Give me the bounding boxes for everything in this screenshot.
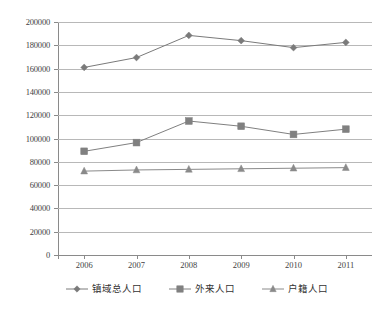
data-point-marker [342,39,349,46]
series-line [84,168,346,171]
population-line-chart: 0200004000060000800001000001200001400001… [0,0,392,319]
legend-label: 镇域总人口 [92,283,142,294]
legend-label: 外来人口 [195,283,235,294]
series-layer [0,0,392,319]
data-point-marker [81,148,88,155]
data-point-marker [290,164,297,171]
data-point-marker [185,32,192,39]
data-point-marker [185,165,192,172]
series-line [84,121,346,151]
chart-legend: 镇域总人口外来人口户籍人口 [0,283,392,294]
data-point-marker [238,123,245,130]
legend-item-1[interactable]: 镇域总人口 [65,283,142,294]
data-point-marker [133,166,140,173]
data-point-marker [238,165,245,172]
diamond-marker-icon [65,284,89,294]
series-line [84,35,346,67]
series-1 [81,32,349,71]
series-2 [81,118,349,155]
data-point-marker [133,54,140,61]
data-point-marker [342,126,349,133]
data-point-marker [185,118,192,125]
data-point-marker [290,44,297,51]
data-point-marker [81,64,88,71]
data-point-marker [238,37,245,44]
data-point-marker [290,131,297,138]
legend-item-3[interactable]: 户籍人口 [261,283,328,294]
legend-item-2[interactable]: 外来人口 [168,283,235,294]
triangle-marker-icon [261,284,285,294]
square-marker-icon [168,284,192,294]
series-3 [81,164,349,174]
legend-label: 户籍人口 [288,283,328,294]
data-point-marker [342,164,349,171]
data-point-marker [133,139,140,146]
